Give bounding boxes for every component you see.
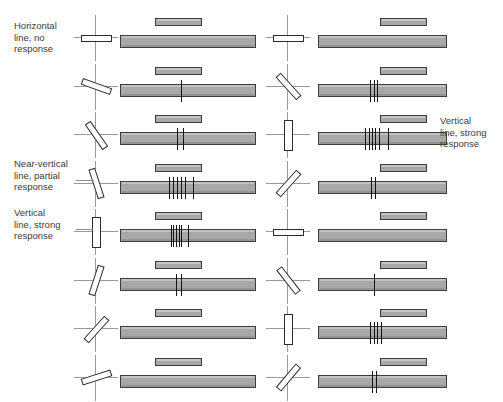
spike-mark xyxy=(372,128,373,150)
orientation-icon xyxy=(264,111,312,159)
spike-mark xyxy=(388,128,389,150)
orientation-icon xyxy=(264,63,312,111)
stimulus-bar-highlight xyxy=(382,310,425,312)
stimulus-bar-highlight xyxy=(382,68,425,70)
response-bar-highlight xyxy=(320,36,445,38)
response-record-bar xyxy=(318,229,447,242)
spike-mark xyxy=(381,322,382,344)
response-record-bar xyxy=(318,35,447,48)
trial-row xyxy=(0,305,503,353)
response-bar-highlight xyxy=(320,327,445,329)
response-bar-highlight xyxy=(320,279,445,281)
stimulus-bar xyxy=(380,115,427,123)
stimulus-bar-highlight xyxy=(382,262,425,264)
response-bar-highlight xyxy=(320,230,445,232)
response-bar-shadow xyxy=(320,239,445,241)
spike-mark xyxy=(375,177,376,199)
orientation-icon xyxy=(264,208,312,256)
response-record-bar xyxy=(318,278,447,291)
spike-mark xyxy=(379,128,380,150)
stimulus-bar xyxy=(380,164,427,172)
spike-mark xyxy=(377,322,378,344)
stimulus-bar xyxy=(380,309,427,317)
spike-mark xyxy=(370,80,371,102)
response-record-bar xyxy=(318,326,447,339)
annotation-vertical-strong-response-right: Vertical line, strong response xyxy=(440,115,486,150)
response-bar-shadow xyxy=(320,94,445,96)
response-bar-shadow xyxy=(320,288,445,290)
stimulus-bar-highlight xyxy=(382,213,425,215)
annotation-near-vertical-partial-response: Near-vertical line, partial response xyxy=(14,158,68,193)
response-bar-highlight xyxy=(320,376,445,378)
spike-mark xyxy=(371,177,372,199)
response-bar-highlight xyxy=(320,85,445,87)
annotation-vertical-strong-response-left: Vertical line, strong response xyxy=(14,207,60,242)
spike-mark xyxy=(372,371,373,393)
stimulus-bar xyxy=(380,67,427,75)
trial-row xyxy=(0,354,503,402)
response-bar-shadow xyxy=(320,191,445,193)
spike-mark xyxy=(374,322,375,344)
oriented-bar-icon xyxy=(284,120,293,151)
stimulus-bar xyxy=(380,358,427,366)
response-bar-highlight xyxy=(320,133,445,135)
trial-row xyxy=(0,14,503,62)
stimulus-bar-highlight xyxy=(382,19,425,21)
oriented-bar-icon xyxy=(275,170,301,198)
response-bar-shadow xyxy=(320,45,445,47)
spike-mark xyxy=(365,128,366,150)
response-record-bar xyxy=(318,84,447,97)
trial-row xyxy=(0,257,503,305)
orientation-icon xyxy=(264,160,312,208)
response-record-bar xyxy=(318,181,447,194)
stimulus-bar-highlight xyxy=(382,165,425,167)
stimulus-bar-highlight xyxy=(382,359,425,361)
response-record-bar xyxy=(318,132,447,145)
response-record-bar xyxy=(318,375,447,388)
spike-mark xyxy=(376,371,377,393)
annotation-leader-line xyxy=(76,229,93,230)
oriented-bar-icon xyxy=(273,35,304,42)
oriented-bar-icon xyxy=(276,266,301,295)
stimulus-bar xyxy=(380,18,427,26)
response-bar-shadow xyxy=(320,336,445,338)
annotation-horizontal-no-response: Horizontal line, no response xyxy=(14,20,57,55)
response-bar-shadow xyxy=(320,142,445,144)
stimulus-bar xyxy=(380,261,427,269)
response-bar-shadow xyxy=(320,385,445,387)
oriented-bar-icon xyxy=(275,73,301,101)
spike-mark xyxy=(374,80,375,102)
oriented-bar-icon xyxy=(273,229,304,236)
oriented-bar-icon xyxy=(275,363,300,391)
stimulus-bar-highlight xyxy=(382,116,425,118)
trial-row xyxy=(0,111,503,159)
annotation-leader-line xyxy=(76,180,94,181)
orientation-icon xyxy=(264,257,312,305)
spike-mark xyxy=(375,128,376,150)
trial-row xyxy=(0,160,503,208)
orientation-icon xyxy=(264,14,312,62)
spike-mark xyxy=(377,80,378,102)
spike-mark xyxy=(374,274,375,296)
response-bar-highlight xyxy=(320,182,445,184)
trial-row xyxy=(0,63,503,111)
orientation-icon xyxy=(264,354,312,402)
stimulus-bar xyxy=(380,212,427,220)
spike-mark xyxy=(370,322,371,344)
oriented-bar-icon xyxy=(284,314,293,345)
spike-mark xyxy=(369,128,370,150)
orientation-icon xyxy=(264,305,312,353)
trial-row xyxy=(0,208,503,256)
